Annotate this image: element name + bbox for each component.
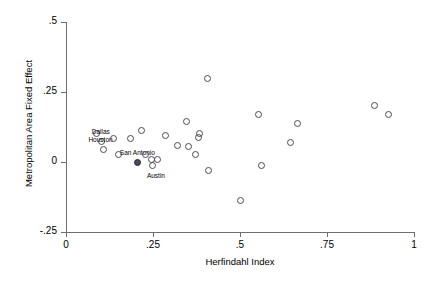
data-point [258,162,265,169]
scatter-plot-figure: .5.250-.25 0.25.5.751 Metropolitan Area … [0,0,433,286]
data-point-houston [100,146,107,153]
data-point [371,102,378,109]
data-point [255,111,262,118]
data-point [196,130,203,137]
point-label-austin: Austin [147,172,165,179]
data-point [237,197,244,204]
data-point [205,167,212,174]
data-point [294,120,301,127]
point-label-san-antonio: San Antonio [120,149,155,156]
data-point [204,75,211,82]
data-point [110,135,117,142]
data-point [192,151,199,158]
data-point [185,143,192,150]
data-point [385,111,392,118]
data-point [162,132,169,139]
data-point [127,135,134,142]
point-label-dallas: Dallas [92,128,110,135]
data-point [138,127,145,134]
data-point-austin [149,162,156,169]
data-point [183,118,190,125]
data-point-san-antonio [134,159,141,166]
plot-area: DallasHoustonSan AntonioAustin [0,0,433,286]
data-point [154,156,161,163]
data-point [174,142,181,149]
data-point [287,139,294,146]
point-label-houston: Houston [88,136,112,143]
